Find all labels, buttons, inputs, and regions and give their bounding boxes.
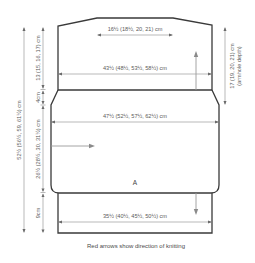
arrow-down-icon [194, 193, 198, 215]
body-section-outline [51, 90, 219, 193]
rib-width-label: 35½ (40½, 45½, 50½) cm [103, 213, 167, 219]
armhole-depth-label: 17 (19, 20, 21) cm [229, 43, 235, 89]
rib-section-label: 9cm [35, 207, 41, 218]
arrow-up-icon [194, 51, 198, 90]
total-length-label: 52½ (56½, 59, 61½) cm [16, 100, 22, 160]
neck-width-label: 16½ (18½, 20, 21) cm [108, 26, 163, 32]
neck-width-dimension: 16½ (18½, 20, 21) cm [97, 26, 173, 37]
armhole-depth-note: (armhole depth) [236, 46, 242, 86]
shoulder-width-label: 43½ (48½, 53½, 58½) cm [103, 65, 167, 71]
caption: Red arrows show direction of knitting [87, 243, 185, 249]
segmented-length-dimension: 13 (15, 16, 17) cm 4cm 26½ (28½, 30, 31½… [35, 27, 46, 233]
body-section-label: 26½ (28½, 30, 31½) cm [35, 119, 41, 179]
knitting-direction-arrows [51, 51, 198, 215]
arrow-right-icon [51, 144, 95, 148]
total-length-dimension: 52½ (56½, 59, 61½) cm [16, 27, 26, 233]
shaping-section-label: 4cm [35, 92, 41, 103]
body-width-label: 47½ (52½, 57½, 62½) cm [103, 113, 167, 119]
garment-outline [51, 18, 219, 233]
rib-width-dimension: 35½ (40½, 45½, 50½) cm [58, 213, 212, 224]
body-width-dimension: 47½ (52½, 57½, 62½) cm [51, 113, 219, 124]
upper-section-label: 13 (15, 16, 17) cm [35, 35, 41, 81]
armhole-depth-dimension: 17 (19, 20, 21) cm (armhole depth) [224, 27, 243, 105]
knitting-schematic: 16½ (18½, 20, 21) cm 43½ (48½, 53½, 58½)… [0, 0, 255, 263]
shoulder-width-dimension: 43½ (48½, 53½, 58½) cm [58, 65, 212, 76]
piece-label: A [133, 179, 138, 186]
